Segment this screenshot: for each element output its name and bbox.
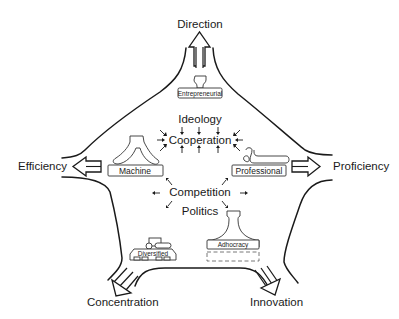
diversified-pill [155, 243, 171, 248]
entrepreneurial-apex-shape [194, 76, 206, 88]
adhocracy-dashed-box [207, 252, 259, 261]
division-box-2 [142, 257, 148, 260]
cooperation-label: Cooperation [169, 134, 232, 146]
professional-configuration: Professional [232, 148, 289, 176]
division-box-3 [156, 257, 162, 260]
frame-curve-right-bottom [284, 180, 332, 283]
competition-label: Competition [169, 186, 230, 198]
adhocracy-configuration: Adhocracy [207, 211, 259, 261]
inward-arrows-right [233, 130, 243, 151]
division-box-4 [164, 257, 170, 260]
professional-shape [246, 148, 289, 163]
cooperation-cluster: Ideology Cooperation [157, 113, 243, 153]
concentration-label: Concentration [87, 296, 159, 308]
proficiency-label: Proficiency [333, 160, 389, 172]
organizational-forces-diagram: Direction Efficiency Proficiency Concent… [0, 0, 399, 319]
diversified-label: Diversified [138, 250, 169, 257]
entrepreneurial-configuration: Entrepreneurial [178, 76, 223, 98]
inward-arrows-bottom [180, 145, 220, 153]
frame-curve-bottom [135, 268, 270, 290]
efficiency-arrow-left [73, 157, 101, 176]
frame-curve-left-bottom [62, 177, 122, 280]
division-box-1 [134, 257, 140, 260]
politics-label: Politics [182, 205, 219, 217]
machine-configuration: Machine [108, 136, 163, 176]
adhocracy-label: Adhocracy [218, 241, 249, 249]
direction-arrow-up [189, 32, 210, 69]
machine-label: Machine [119, 166, 151, 176]
efficiency-label: Efficiency [18, 160, 67, 172]
entrepreneurial-label: Entrepreneurial [178, 90, 223, 98]
machine-shape [113, 136, 159, 164]
frame-curve-top-left [62, 48, 186, 158]
innovation-arrow [255, 266, 280, 295]
diversified-configuration: Diversified [130, 238, 176, 260]
proficiency-arrow-right [292, 157, 320, 176]
inward-arrows-left [157, 130, 167, 151]
direction-label: Direction [177, 18, 222, 30]
diversified-circle [146, 243, 152, 249]
professional-label: Professional [236, 166, 283, 176]
ideology-label: Ideology [178, 113, 222, 125]
professional-shape-loop [244, 156, 250, 162]
innovation-label: Innovation [250, 296, 303, 308]
